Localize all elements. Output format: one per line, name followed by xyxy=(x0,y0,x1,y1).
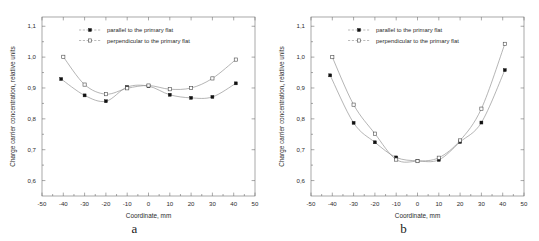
y-axis-title: Charge carrier concentration, relative u… xyxy=(278,46,286,166)
legend-label: parallel to the primary flat xyxy=(376,27,442,33)
y-tick-label: 1,0 xyxy=(28,53,37,60)
data-point-marker xyxy=(416,160,419,163)
plot-frame xyxy=(311,17,524,196)
x-tick-label: 20 xyxy=(188,200,195,207)
x-tick-label: 20 xyxy=(457,200,464,207)
legend-marker xyxy=(88,39,91,42)
x-tick-label: 0 xyxy=(416,200,420,207)
x-tick-label: -50 xyxy=(38,200,47,207)
y-tick-label: 0,6 xyxy=(297,177,306,184)
data-point-marker xyxy=(168,88,171,91)
data-point-marker xyxy=(437,156,440,159)
figure-container: -50-40-30-20-10010203040500,60,70,80,91,… xyxy=(0,0,539,241)
panel-caption-a: a xyxy=(0,221,269,237)
series-group xyxy=(331,42,507,162)
data-point-marker xyxy=(83,94,86,97)
x-axis-title: Coordinate, mm xyxy=(395,212,440,219)
series-group xyxy=(329,69,507,163)
data-point-marker xyxy=(104,100,107,103)
x-tick-label: 40 xyxy=(230,200,237,207)
data-point-marker xyxy=(352,121,355,124)
x-tick-label: 10 xyxy=(166,200,173,207)
y-tick-label: 1,1 xyxy=(297,22,306,29)
x-tick-label: -10 xyxy=(392,200,401,207)
data-point-marker xyxy=(373,132,376,135)
data-point-marker xyxy=(459,139,462,142)
x-tick-label: -30 xyxy=(349,200,358,207)
data-point-marker xyxy=(168,93,171,96)
y-axis-title: Charge carrier concentration, relative u… xyxy=(9,46,17,166)
y-tick-label: 0,7 xyxy=(28,146,37,153)
data-point-marker xyxy=(126,87,129,90)
y-tick-label: 1,1 xyxy=(28,22,37,29)
legend-label: perpendicular to the primary flat xyxy=(376,38,459,44)
data-point-marker xyxy=(503,42,506,45)
data-point-marker xyxy=(331,56,334,59)
x-tick-label: 10 xyxy=(435,200,442,207)
legend-marker xyxy=(358,29,361,32)
series-curve xyxy=(61,79,236,102)
plot-frame xyxy=(42,17,255,196)
x-tick-label: -30 xyxy=(80,200,89,207)
data-point-marker xyxy=(211,77,214,80)
chart-panel-a: -50-40-30-20-10010203040500,60,70,80,91,… xyxy=(0,0,269,241)
y-tick-label: 0,6 xyxy=(28,177,37,184)
data-point-marker xyxy=(234,82,237,85)
legend-marker xyxy=(89,29,92,32)
x-tick-label: -40 xyxy=(59,200,68,207)
data-point-marker xyxy=(147,84,150,87)
data-point-marker xyxy=(373,141,376,144)
data-point-marker xyxy=(395,158,398,161)
data-point-marker xyxy=(234,58,237,61)
y-tick-label: 0,9 xyxy=(297,84,306,91)
series-group xyxy=(60,78,238,103)
y-tick-label: 0,7 xyxy=(297,146,306,153)
data-point-marker xyxy=(503,69,506,72)
x-tick-label: -10 xyxy=(123,200,132,207)
y-tick-label: 0,9 xyxy=(28,84,37,91)
x-tick-label: -40 xyxy=(328,200,337,207)
chart-panel-b: -50-40-30-20-10010203040500,60,70,80,91,… xyxy=(269,0,538,241)
series-group xyxy=(62,55,238,96)
x-axis-title: Coordinate, mm xyxy=(126,212,171,219)
series-curve xyxy=(330,70,505,162)
chart-svg-b: -50-40-30-20-10010203040500,60,70,80,91,… xyxy=(269,0,538,241)
x-tick-label: 30 xyxy=(209,200,216,207)
data-point-marker xyxy=(83,83,86,86)
data-point-marker xyxy=(60,78,63,81)
data-point-marker xyxy=(352,103,355,106)
data-point-marker xyxy=(329,74,332,77)
chart-svg-a: -50-40-30-20-10010203040500,60,70,80,91,… xyxy=(0,0,269,241)
data-point-marker xyxy=(480,121,483,124)
x-tick-label: 40 xyxy=(499,200,506,207)
y-tick-label: 0,8 xyxy=(297,115,306,122)
x-tick-label: -50 xyxy=(307,200,316,207)
x-tick-label: 50 xyxy=(521,200,528,207)
y-tick-label: 1,0 xyxy=(297,53,306,60)
legend-label: parallel to the primary flat xyxy=(107,27,173,33)
legend-marker xyxy=(357,39,360,42)
x-tick-label: 30 xyxy=(478,200,485,207)
panel-caption-b: b xyxy=(269,221,538,237)
legend-label: perpendicular to the primary flat xyxy=(107,38,190,44)
y-tick-label: 0,8 xyxy=(28,115,37,122)
x-tick-label: 50 xyxy=(252,200,259,207)
data-point-marker xyxy=(190,96,193,99)
data-point-marker xyxy=(190,86,193,89)
series-curve xyxy=(63,57,236,94)
data-point-marker xyxy=(104,93,107,96)
x-tick-label: -20 xyxy=(370,200,379,207)
data-point-marker xyxy=(211,95,214,98)
x-tick-label: 0 xyxy=(147,200,151,207)
data-point-marker xyxy=(480,107,483,110)
data-point-marker xyxy=(62,55,65,58)
x-tick-label: -20 xyxy=(101,200,110,207)
series-curve xyxy=(332,44,505,162)
